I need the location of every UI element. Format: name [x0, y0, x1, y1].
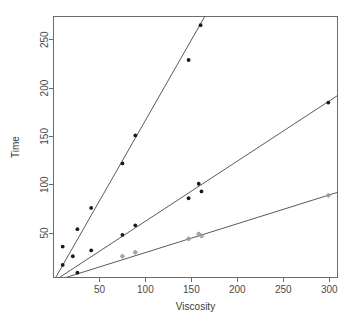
data-point-shallow — [133, 250, 137, 254]
data-point-steep — [61, 245, 65, 249]
data-point-shallow — [120, 254, 124, 258]
data-point-medium — [133, 223, 137, 227]
data-point-shallow — [326, 193, 330, 197]
y-tick-label: 50 — [39, 227, 50, 239]
data-point-steep — [199, 23, 203, 27]
data-point-steep — [61, 263, 65, 267]
data-point-steep — [75, 227, 79, 231]
x-tick-label: 300 — [321, 284, 338, 295]
x-tick-label: 150 — [183, 284, 200, 295]
data-point-medium — [197, 182, 201, 186]
x-axis-title: Viscosity — [176, 301, 215, 312]
y-axis-title: Time — [10, 136, 21, 158]
y-tick-label: 100 — [39, 176, 50, 193]
y-tick-label: 250 — [39, 31, 50, 48]
data-point-steep — [187, 58, 191, 62]
x-tick-label: 100 — [137, 284, 154, 295]
chart-container: 5010015020025030050100150200250Viscosity… — [0, 0, 356, 323]
scatter-plot: 5010015020025030050100150200250Viscosity… — [0, 0, 356, 323]
x-tick-label: 200 — [229, 284, 246, 295]
y-tick-label: 200 — [39, 79, 50, 96]
data-point-steep — [89, 249, 93, 253]
y-tick-label: 150 — [39, 128, 50, 145]
data-point-steep — [71, 254, 75, 258]
data-point-medium — [121, 233, 125, 237]
x-tick-label: 50 — [94, 284, 106, 295]
data-point-shallow — [186, 237, 190, 241]
x-tick-label: 250 — [275, 284, 292, 295]
data-point-steep — [121, 162, 125, 166]
data-point-medium — [200, 190, 204, 194]
data-point-medium — [75, 271, 79, 275]
data-point-steep — [133, 134, 137, 138]
data-point-medium — [187, 196, 191, 200]
data-point-shallow — [199, 234, 203, 238]
data-point-medium — [326, 101, 330, 105]
data-point-steep — [89, 206, 93, 210]
